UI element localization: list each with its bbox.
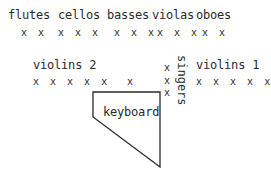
keyboard-label: keyboard: [103, 105, 159, 119]
keyboard-outline: [0, 0, 271, 177]
